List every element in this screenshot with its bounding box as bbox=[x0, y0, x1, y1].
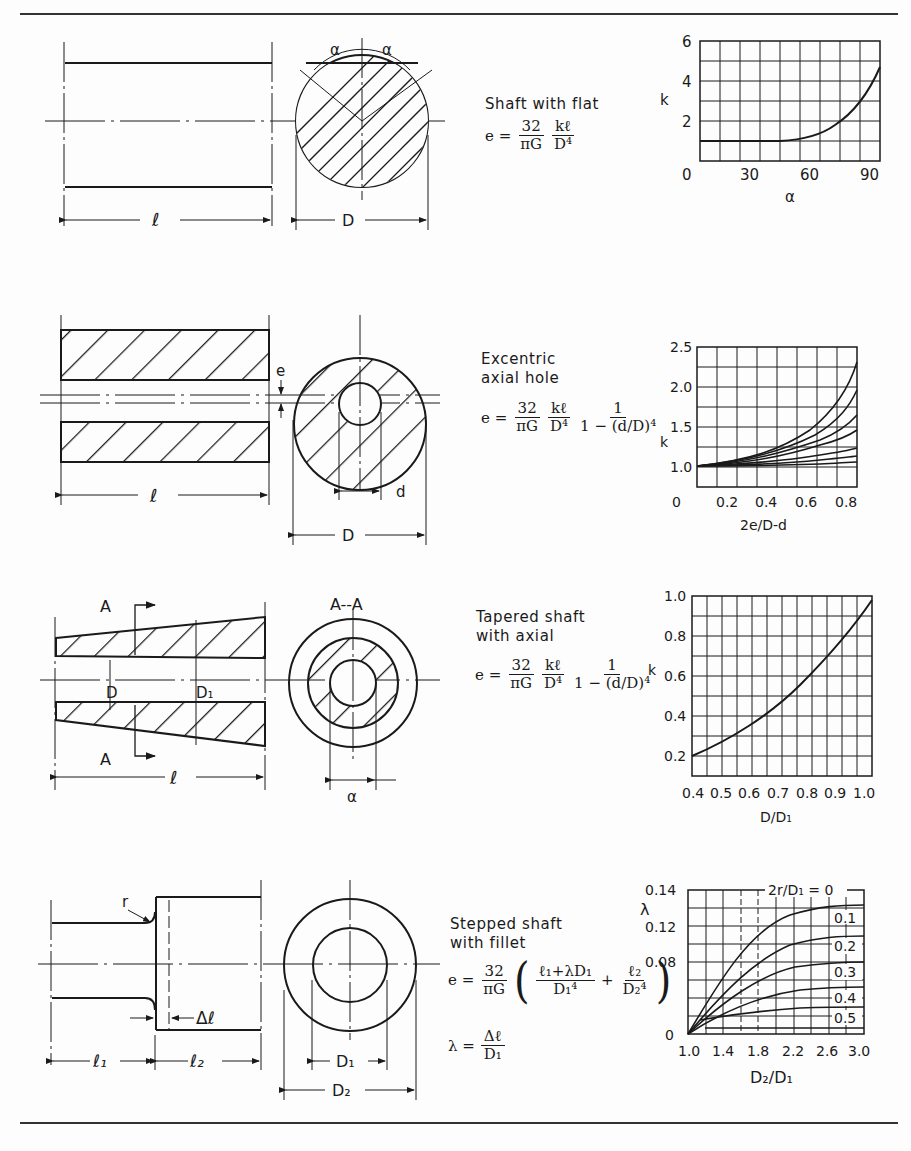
fraction: 11 − (d/D)⁴ bbox=[577, 400, 659, 435]
fraction: kℓD⁴ bbox=[547, 400, 571, 435]
caption-line: Excentric bbox=[481, 350, 559, 369]
numerator: 32 bbox=[519, 118, 544, 136]
small-diameter-label: D bbox=[106, 684, 118, 702]
length1-label: ℓ₁ bbox=[92, 1051, 107, 1071]
formula-lhs: e = bbox=[481, 409, 507, 427]
k-curve bbox=[700, 67, 880, 141]
xlabel: D/D₁ bbox=[760, 809, 792, 825]
ytick: 0.4 bbox=[664, 708, 686, 724]
denominator: D₂⁴ bbox=[620, 981, 650, 998]
caption-line: axial hole bbox=[481, 369, 559, 388]
xtick: 2.2 bbox=[782, 1043, 804, 1059]
chart-grid bbox=[700, 41, 880, 161]
xtick: 3.0 bbox=[848, 1043, 870, 1059]
ytick: 0.12 bbox=[645, 919, 676, 935]
caption-line: with axial bbox=[476, 627, 585, 646]
open-paren: ( bbox=[514, 956, 530, 1004]
section-tapered-shaft: A A D D₁ ℓ A--A α Tapered shaft with axi… bbox=[0, 580, 911, 850]
xtick: 0.4 bbox=[755, 494, 777, 510]
ytick: 0 bbox=[665, 1027, 674, 1043]
xtick: 0.8 bbox=[835, 494, 857, 510]
length2-label: ℓ₂ bbox=[189, 1051, 204, 1071]
denominator: D⁴ bbox=[541, 675, 565, 692]
denominator: πG bbox=[507, 675, 535, 692]
xlabel: α bbox=[785, 188, 795, 206]
formula-lhs: λ = bbox=[448, 1037, 475, 1055]
numerator: kℓ bbox=[552, 118, 574, 136]
fraction: 32πG bbox=[513, 400, 541, 435]
xtick: 0.6 bbox=[738, 785, 760, 801]
xtick: 0 bbox=[682, 166, 692, 184]
angle-left-label: α bbox=[330, 41, 340, 59]
section-title: Tapered shaft with axial bbox=[476, 608, 585, 646]
curve-label: 0.3 bbox=[834, 964, 856, 980]
formula: e = 32πG kℓD⁴ bbox=[485, 118, 575, 153]
xtick: 1.8 bbox=[747, 1043, 769, 1059]
length-label: ℓ bbox=[149, 485, 157, 506]
xtick: 0.5 bbox=[710, 785, 732, 801]
ytick: 0.08 bbox=[645, 954, 676, 970]
excentric-drawing: e ℓ d D bbox=[0, 290, 460, 570]
caption-line: Tapered shaft bbox=[476, 608, 585, 627]
ylabel: k bbox=[648, 662, 657, 678]
xtick: 0.7 bbox=[767, 785, 789, 801]
ytick: 1.0 bbox=[670, 459, 692, 475]
length-label: ℓ bbox=[151, 209, 159, 230]
width-label: α bbox=[347, 788, 357, 806]
ytick: 1.5 bbox=[670, 419, 692, 435]
numerator: kℓ bbox=[542, 657, 564, 675]
delta-label: Δℓ bbox=[196, 1008, 215, 1028]
caption-line: with fillet bbox=[450, 934, 562, 953]
formula: e = 32πG kℓD⁴ 11 − (d/D)⁴ bbox=[481, 400, 659, 435]
angle-right-label: α bbox=[382, 41, 392, 59]
xtick: 90 bbox=[860, 166, 879, 184]
section-shaft-with-flat: ℓ α α D Shaft with flat e = 32πG bbox=[0, 0, 911, 260]
xtick: 0.4 bbox=[682, 785, 704, 801]
section-view-label: A--A bbox=[330, 595, 363, 614]
ytick: 0.6 bbox=[664, 668, 686, 684]
denominator: πG bbox=[513, 418, 541, 435]
denominator: 1 − (d/D)⁴ bbox=[577, 418, 659, 435]
ytick: 2.5 bbox=[670, 339, 692, 355]
xtick: 1.0 bbox=[853, 785, 875, 801]
curve-label: 0.1 bbox=[834, 910, 856, 926]
legend-title: 2r/D₁ = 0 bbox=[768, 882, 833, 898]
xtick: 2.6 bbox=[816, 1043, 838, 1059]
denominator: πG bbox=[480, 981, 508, 998]
xtick: 60 bbox=[800, 166, 819, 184]
xtick: 0.2 bbox=[716, 494, 738, 510]
diameter-label: D bbox=[342, 526, 354, 545]
dia2-label: D₂ bbox=[332, 1081, 351, 1100]
section-mark-top: A bbox=[100, 597, 111, 616]
fraction: ℓ₁+λD₁D₁⁴ bbox=[536, 963, 595, 998]
xtick: 0.9 bbox=[824, 785, 846, 801]
eccentricity-label: e bbox=[276, 362, 285, 380]
tapered-drawing: A A D D₁ ℓ A--A α bbox=[0, 580, 460, 840]
curve-label: 0.5 bbox=[834, 1010, 856, 1026]
denominator: 1 − (d/D)⁴ bbox=[571, 675, 653, 692]
numerator: 32 bbox=[509, 657, 534, 675]
diameter-label: D bbox=[342, 211, 354, 230]
formula: e = 32πG ( ℓ₁+λD₁D₁⁴ + ℓ₂D₂⁴ ) bbox=[448, 960, 671, 1000]
fraction: 32πG bbox=[480, 963, 508, 998]
caption-line: Stepped shaft bbox=[450, 915, 562, 934]
curve-label: 0.2 bbox=[834, 938, 856, 954]
section-title: Excentric axial hole bbox=[481, 350, 559, 388]
formula-lhs: e = bbox=[485, 127, 511, 145]
ylabel: k bbox=[660, 91, 669, 109]
xtick: 0 bbox=[672, 494, 681, 510]
section-stepped-shaft: r Δℓ ℓ₁ ℓ₂ D₁ D₂ Stepped shaft with fill… bbox=[0, 870, 911, 1120]
formula-lhs: e = bbox=[448, 971, 474, 989]
curve-label: 0.4 bbox=[834, 990, 856, 1006]
section-title: Shaft with flat bbox=[485, 95, 599, 114]
numerator: ℓ₁+λD₁ bbox=[536, 963, 595, 981]
ylabel: k bbox=[660, 434, 669, 450]
numerator: 1 bbox=[604, 657, 620, 675]
xtick: 1.4 bbox=[712, 1043, 734, 1059]
caption-line: Shaft with flat bbox=[485, 95, 599, 114]
fraction: kℓD⁴ bbox=[541, 657, 565, 692]
denominator: πG bbox=[517, 136, 545, 153]
xtick: 0.6 bbox=[795, 494, 817, 510]
ytick: 6 bbox=[682, 33, 692, 51]
xtick: 30 bbox=[740, 166, 759, 184]
